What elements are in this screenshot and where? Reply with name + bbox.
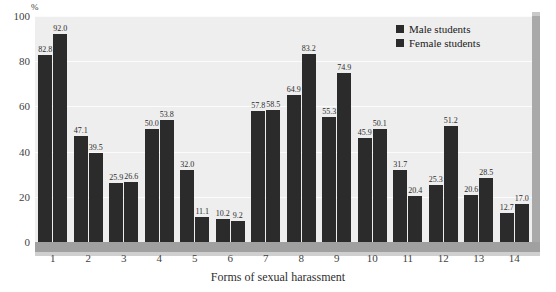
right-wall: [532, 16, 540, 248]
bar-female[interactable]: 53.8: [160, 120, 174, 242]
bar-male[interactable]: 45.9: [358, 138, 372, 242]
bar-value-label: 92.0: [53, 25, 67, 34]
bar-male[interactable]: 64.9: [287, 95, 301, 242]
bar-value-label: 31.7: [393, 161, 407, 170]
x-axis-tick-label: 9: [334, 252, 340, 264]
y-axis-tick-label: 60: [0, 100, 30, 112]
bar-value-label: 20.4: [408, 187, 422, 196]
y-axis-tick-label: 0: [0, 236, 30, 248]
chart-container: % 020406080100 82.892.047.139.525.926.65…: [0, 0, 556, 292]
legend-item-male: Male students: [396, 23, 480, 35]
bar-value-label: 58.5: [266, 101, 280, 110]
bar-group: 64.983.2: [284, 16, 320, 242]
bar-male[interactable]: 10.2: [216, 219, 230, 242]
bar-group: 82.892.0: [35, 16, 71, 242]
bar-value-label: 11.1: [195, 208, 209, 217]
bar-male[interactable]: 25.9: [109, 183, 123, 242]
bar-group: 25.926.6: [106, 16, 142, 242]
legend-swatch-female: [396, 39, 404, 47]
bar-male[interactable]: 57.8: [251, 111, 265, 242]
x-axis-tick-label: 6: [228, 252, 234, 264]
bar-value-label: 17.0: [515, 195, 529, 204]
bar-group: 57.858.5: [248, 16, 284, 242]
bar-female[interactable]: 58.5: [266, 110, 280, 242]
bar-group: 47.139.5: [71, 16, 107, 242]
x-axis-tick-label: 10: [367, 252, 378, 264]
bar-male[interactable]: 25.3: [429, 185, 443, 242]
x-axis-tick-label: 2: [86, 252, 92, 264]
bar-female[interactable]: 26.6: [124, 182, 138, 242]
bar-male[interactable]: 32.0: [180, 170, 194, 242]
y-axis-tick-label: 20: [0, 191, 30, 203]
bar-value-label: 55.3: [322, 108, 336, 117]
x-axis-tick-label: 7: [263, 252, 269, 264]
legend-label-male: Male students: [409, 23, 470, 35]
bar-male[interactable]: 47.1: [74, 136, 88, 242]
y-axis-tick-label: 100: [0, 10, 30, 22]
bar-value-label: 12.7: [500, 204, 514, 213]
bar-group: 45.950.1: [355, 16, 391, 242]
bar-male[interactable]: 50.0: [145, 129, 159, 242]
bar-male[interactable]: 55.3: [322, 117, 336, 242]
axis-floor: [35, 242, 540, 252]
bar-value-label: 25.3: [429, 176, 443, 185]
bar-value-label: 83.2: [302, 45, 316, 54]
bar-value-label: 57.8: [251, 102, 265, 111]
x-axis-tick-label: 4: [157, 252, 163, 264]
bar-value-label: 9.2: [233, 212, 243, 221]
x-axis-tick-label: 5: [192, 252, 198, 264]
bar-female[interactable]: 83.2: [302, 54, 316, 242]
x-axis-tick-label: 3: [121, 252, 127, 264]
y-axis: 020406080100: [0, 0, 30, 292]
bar-value-label: 53.8: [160, 111, 174, 120]
legend-item-female: Female students: [396, 37, 480, 49]
bar-value-label: 74.9: [337, 64, 351, 73]
bar-value-label: 64.9: [287, 86, 301, 95]
x-axis-title: Forms of sexual harassment: [0, 270, 556, 285]
bar-female[interactable]: 92.0: [53, 34, 67, 242]
legend-label-female: Female students: [409, 37, 480, 49]
bar-value-label: 50.0: [145, 120, 159, 129]
x-axis-tick-label: 13: [473, 252, 484, 264]
bar-female[interactable]: 17.0: [515, 204, 529, 242]
bar-female[interactable]: 28.5: [479, 178, 493, 242]
x-axis-tick-label: 11: [402, 252, 413, 264]
bar-value-label: 82.8: [38, 46, 52, 55]
bar-female[interactable]: 50.1: [373, 129, 387, 242]
bar-group: 10.29.2: [213, 16, 249, 242]
bar-group: 55.374.9: [319, 16, 355, 242]
legend-swatch-male: [396, 25, 404, 33]
bar-male[interactable]: 20.6: [464, 195, 478, 242]
bar-female[interactable]: 39.5: [89, 153, 103, 242]
bar-value-label: 10.2: [216, 210, 230, 219]
bar-male[interactable]: 82.8: [38, 55, 52, 242]
bar-value-label: 51.2: [444, 117, 458, 126]
bar-value-label: 26.6: [124, 173, 138, 182]
x-axis: 1234567891011121314: [35, 252, 540, 268]
bar-female[interactable]: 9.2: [231, 221, 245, 242]
legend: Male students Female students: [396, 23, 480, 51]
bar-value-label: 50.1: [373, 120, 387, 129]
bar-value-label: 32.0: [180, 161, 194, 170]
bar-group: 32.011.1: [177, 16, 213, 242]
bar-value-label: 45.9: [358, 129, 372, 138]
bar-male[interactable]: 12.7: [500, 213, 514, 242]
bar-female[interactable]: 11.1: [195, 217, 209, 242]
bar-group: 12.717.0: [497, 16, 533, 242]
x-axis-tick-label: 12: [438, 252, 449, 264]
y-axis-tick-label: 40: [0, 146, 30, 158]
bar-value-label: 47.1: [74, 127, 88, 136]
bar-value-label: 20.6: [464, 186, 478, 195]
bar-value-label: 28.5: [479, 169, 493, 178]
y-axis-tick-label: 80: [0, 55, 30, 67]
bar-female[interactable]: 20.4: [408, 196, 422, 242]
x-axis-tick-label: 14: [509, 252, 520, 264]
x-axis-tick-label: 8: [299, 252, 305, 264]
bar-male[interactable]: 31.7: [393, 170, 407, 242]
bar-value-label: 25.9: [109, 174, 123, 183]
bar-female[interactable]: 74.9: [337, 73, 351, 242]
x-axis-tick-label: 1: [50, 252, 56, 264]
bar-group: 50.053.8: [142, 16, 178, 242]
bar-value-label: 39.5: [89, 144, 103, 153]
bar-female[interactable]: 51.2: [444, 126, 458, 242]
